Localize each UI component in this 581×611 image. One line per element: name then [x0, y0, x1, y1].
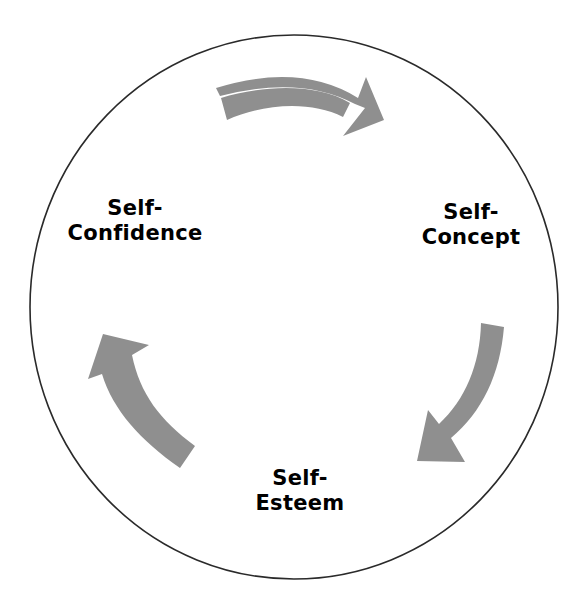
node-self-concept-line1: Self- [411, 200, 531, 225]
node-self-confidence-line1: Self- [60, 196, 210, 221]
cycle-diagram [0, 0, 581, 611]
arrow-esteem-to-confidence-icon [88, 334, 195, 468]
node-self-esteem: Self- Esteem [240, 466, 360, 516]
arrow-confidence-to-concept-icon [216, 77, 384, 136]
node-self-concept: Self- Concept [411, 200, 531, 250]
node-self-confidence: Self- Confidence [60, 196, 210, 246]
node-self-esteem-line2: Esteem [240, 491, 360, 516]
arrow-concept-to-esteem-icon [417, 323, 504, 462]
node-self-confidence-line2: Confidence [60, 221, 210, 246]
node-self-esteem-line1: Self- [240, 466, 360, 491]
node-self-concept-line2: Concept [411, 225, 531, 250]
